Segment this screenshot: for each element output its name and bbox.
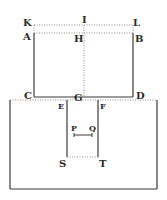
label-s: S bbox=[59, 158, 66, 169]
label-i: I bbox=[82, 14, 87, 25]
geometric-diagram: K I L A H B C G D E F P Q S T bbox=[0, 0, 167, 200]
label-p: P bbox=[71, 123, 77, 133]
label-t: T bbox=[99, 158, 107, 169]
label-a: A bbox=[22, 31, 31, 42]
label-h: H bbox=[74, 33, 83, 44]
label-b: B bbox=[135, 33, 143, 44]
label-q: Q bbox=[89, 123, 96, 133]
label-e: E bbox=[58, 101, 64, 111]
label-k: K bbox=[23, 17, 32, 28]
label-g: G bbox=[74, 92, 83, 103]
label-f: F bbox=[100, 101, 106, 111]
label-c: C bbox=[24, 90, 32, 101]
label-l: L bbox=[133, 17, 140, 28]
label-d: D bbox=[136, 90, 145, 101]
